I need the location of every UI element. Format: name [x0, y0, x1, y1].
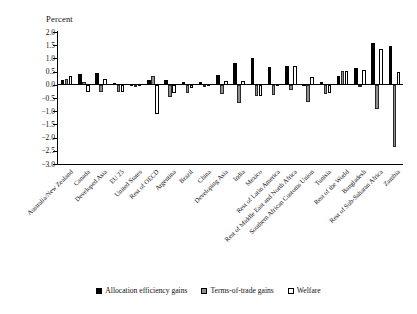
y-tick-label: 2.0 — [27, 29, 55, 37]
bar-group — [371, 32, 383, 164]
bar — [237, 85, 241, 103]
bar — [379, 49, 383, 85]
bar-group — [285, 32, 297, 164]
bar — [397, 72, 401, 85]
bar — [362, 70, 366, 85]
bar — [259, 85, 263, 97]
bar — [121, 85, 125, 92]
bar — [233, 63, 237, 85]
bar — [358, 85, 362, 87]
legend-label: Allocation efficiency gains — [105, 286, 187, 295]
y-tick-label: −3.0 — [27, 161, 55, 169]
bar — [389, 46, 393, 85]
bar-group — [337, 32, 349, 164]
legend-swatch-icon — [96, 288, 102, 294]
legend-swatch-icon — [288, 288, 294, 294]
y-tick-label: −2.5 — [27, 147, 55, 155]
x-category-label: Brazil — [178, 168, 194, 184]
bar — [285, 66, 289, 85]
bar — [345, 71, 349, 84]
bar — [306, 85, 310, 102]
bar — [328, 85, 332, 93]
y-axis-title: Percent — [46, 14, 73, 24]
bar — [251, 58, 255, 84]
bar-group — [164, 32, 176, 164]
x-category-label: Australia/New Zealand — [25, 168, 73, 216]
bar-group — [216, 32, 228, 164]
y-tick-label: −1.5 — [27, 121, 55, 129]
y-tick-label: −2.0 — [27, 134, 55, 142]
bar — [172, 85, 176, 93]
legend-label: Welfare — [297, 286, 321, 295]
bar-group — [113, 32, 125, 164]
bar-group — [78, 32, 90, 164]
bar-group — [320, 32, 332, 164]
x-category-label: Developed Asia — [73, 168, 108, 203]
bar — [190, 85, 194, 88]
bar-group — [302, 32, 314, 164]
y-tick-label: 1.0 — [27, 55, 55, 63]
bar-group — [389, 32, 401, 164]
chart-figure: Percent 2.01.51.00.50.0−0.5−1.0−1.5−2.0−… — [0, 0, 417, 314]
bar-group — [199, 32, 211, 164]
bar — [354, 68, 358, 85]
y-tick-label: −0.5 — [27, 95, 55, 103]
bar-group — [95, 32, 107, 164]
legend-item: Allocation efficiency gains — [96, 286, 187, 295]
bar-group — [233, 32, 245, 164]
bar-group — [268, 32, 280, 164]
bar-group — [61, 32, 73, 164]
y-tick-label: 0.0 — [27, 81, 55, 89]
bar-group — [182, 32, 194, 164]
x-category-label: Zambia — [382, 168, 401, 187]
y-tick-label: 0.5 — [27, 68, 55, 76]
bar-group — [147, 32, 159, 164]
legend-item: Terms-of-trade gains — [201, 286, 273, 295]
legend-item: Welfare — [288, 286, 321, 295]
bar — [99, 85, 103, 92]
zero-baseline — [57, 84, 403, 85]
y-tick-label: −1.0 — [27, 108, 55, 116]
bar-group — [251, 32, 263, 164]
bar — [86, 85, 90, 92]
chart-legend: Allocation efficiency gainsTerms-of-trad… — [0, 286, 417, 295]
bar — [289, 85, 293, 90]
bar — [393, 85, 397, 147]
legend-label: Terms-of-trade gains — [210, 286, 273, 295]
bar — [371, 43, 375, 85]
bar-group — [130, 32, 142, 164]
bar-group — [354, 32, 366, 164]
bar — [220, 85, 224, 94]
x-axis-line — [57, 164, 403, 165]
y-tick-label: 1.5 — [27, 42, 55, 50]
legend-swatch-icon — [201, 288, 207, 294]
bar — [268, 67, 272, 85]
plot-area: 2.01.51.00.50.0−0.5−1.0−1.5−2.0−2.5−3.0 — [57, 32, 402, 164]
bar — [155, 85, 159, 114]
bar — [293, 66, 297, 84]
bar — [375, 85, 379, 109]
